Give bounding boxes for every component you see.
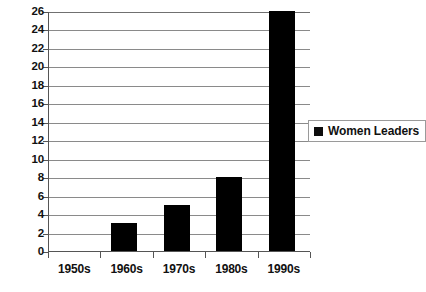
y-axis-label: 20 — [10, 60, 44, 72]
x-axis-label-1960s: 1960s — [100, 262, 152, 276]
plot-area — [48, 12, 310, 252]
y-axis-label: 4 — [10, 208, 44, 220]
legend: Women Leaders — [308, 120, 426, 142]
bar-1970s — [164, 205, 190, 251]
x-axis-tick — [205, 252, 206, 258]
y-axis-label: 6 — [10, 190, 44, 202]
y-axis-label: 2 — [10, 227, 44, 239]
bar-1990s — [269, 11, 295, 251]
y-axis-label: 26 — [10, 5, 44, 17]
x-axis-label-1950s: 1950s — [48, 262, 100, 276]
y-axis-label: 18 — [10, 79, 44, 91]
y-axis-label: 8 — [10, 171, 44, 183]
x-axis-tick — [153, 252, 154, 258]
y-axis-label: 22 — [10, 42, 44, 54]
y-axis-label: 24 — [10, 23, 44, 35]
x-axis-tick — [310, 252, 311, 258]
y-axis-label: 14 — [10, 116, 44, 128]
y-axis-label: 12 — [10, 134, 44, 146]
x-axis-label-1980s: 1980s — [205, 262, 257, 276]
legend-swatch-icon — [314, 127, 323, 136]
bar-1980s — [216, 177, 242, 251]
x-axis-tick — [48, 252, 49, 258]
legend-label: Women Leaders — [328, 124, 419, 138]
y-axis-label: 16 — [10, 97, 44, 109]
bar-1960s — [111, 223, 137, 251]
x-axis-label-1990s: 1990s — [258, 262, 310, 276]
x-axis-tick — [100, 252, 101, 258]
x-axis-label-1970s: 1970s — [153, 262, 205, 276]
y-axis-label: 10 — [10, 153, 44, 165]
y-axis-label: 0 — [10, 245, 44, 257]
x-axis-tick — [258, 252, 259, 258]
